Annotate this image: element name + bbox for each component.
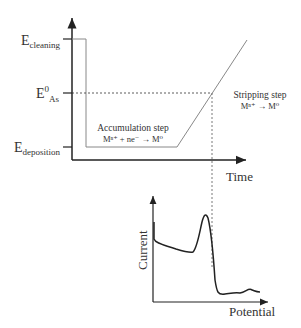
stripping-reaction: Mⁿ⁺ → M⁰ [241,101,280,111]
accumulation-reaction: Mⁿ⁺ + ne⁻ → M⁰ [103,134,164,144]
top-plot: Ecleaning E0As Edeposition Time Accumula… [14,18,287,268]
diagram: Ecleaning E0As Edeposition Time Accumula… [0,0,301,328]
stripping-voltammogram [154,215,260,294]
bottom-plot: Current Potential [135,196,276,319]
label-e-cleaning: Ecleaning [21,33,61,50]
time-label: Time [226,169,253,184]
stripping-title: Stripping step [233,90,286,100]
current-label: Current [135,230,150,270]
label-e-deposition: Edeposition [14,140,61,157]
potential-label: Potential [229,304,276,319]
label-e0-as: E0As [36,84,60,104]
accumulation-title: Accumulation step [97,123,169,133]
